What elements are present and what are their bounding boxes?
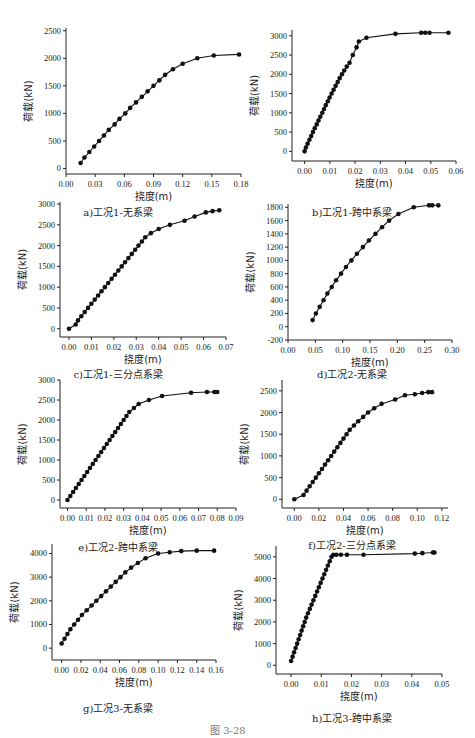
data-point-marker (151, 84, 156, 89)
data-point-marker (349, 258, 354, 263)
data-point-marker (393, 32, 398, 37)
data-point-marker (156, 227, 161, 232)
data-point-marker (320, 576, 325, 581)
data-point-marker (356, 419, 361, 424)
data-point-marker (123, 111, 128, 116)
data-point-marker (97, 139, 102, 144)
data-point-marker (89, 603, 94, 608)
data-point-marker (67, 326, 72, 331)
data-point-marker (432, 550, 437, 555)
y-tick-label: 1000 (38, 455, 55, 465)
load-deflection-line (291, 553, 434, 662)
chart-panel-a: 0.000.030.060.090.120.150.18050010001500… (8, 6, 238, 184)
x-tick-label: 0.12 (434, 513, 449, 523)
x-tick-label: 0.02 (106, 342, 121, 352)
x-tick-label: 0.10 (335, 345, 350, 355)
data-point-marker (65, 632, 70, 637)
y-tick-label: 3000 (254, 595, 271, 605)
y-tick-label: 0 (279, 322, 283, 332)
data-point-marker (163, 73, 168, 78)
y-tick-label: 600 (270, 282, 283, 292)
x-tick-label: 0.03 (373, 166, 388, 176)
data-point-marker (436, 203, 441, 208)
x-tick-label: 0.03 (374, 679, 389, 689)
data-point-marker (344, 432, 349, 437)
x-tick-label: 0.00 (287, 513, 302, 523)
data-point-marker (117, 117, 122, 122)
data-point-marker (123, 260, 128, 265)
load-deflection-line (313, 205, 439, 320)
y-tick-label: 1000 (270, 108, 287, 118)
data-point-marker (296, 637, 301, 642)
data-point-marker (299, 628, 304, 633)
data-point-marker (76, 318, 81, 323)
y-tick-label: 2000 (30, 596, 47, 606)
data-point-marker (147, 398, 152, 403)
data-point-marker (96, 454, 101, 459)
x-tick-label: 0.00 (60, 513, 75, 523)
x-tick-label: 0.05 (154, 513, 169, 523)
data-point-marker (380, 225, 385, 230)
x-tick-label: 0.05 (423, 166, 438, 176)
data-point-marker (118, 575, 123, 580)
y-tick-label: 1000 (266, 255, 283, 265)
data-point-marker (136, 243, 141, 248)
data-point-marker (373, 232, 378, 237)
x-tick-label: 0.06 (196, 342, 211, 352)
y-tick-label: 5000 (254, 552, 271, 562)
y-axis-label: 荷载(kN) (245, 251, 256, 292)
data-point-marker (351, 53, 356, 58)
x-tick-label: 0.10 (410, 513, 425, 523)
chart-panel-e: 0.000.010.020.030.040.050.060.070.080.09… (8, 356, 238, 528)
data-point-marker (99, 289, 104, 294)
y-tick-label: 2000 (44, 53, 61, 63)
y-tick-label: 0 (273, 494, 277, 504)
x-axis-label: 挠度(m) (340, 690, 378, 702)
data-point-marker (335, 445, 340, 450)
data-point-marker (307, 484, 312, 489)
data-point-marker (211, 53, 216, 58)
y-tick-label: 500 (42, 475, 55, 485)
x-tick-label: 0.06 (361, 513, 376, 523)
y-tick-label: 2500 (44, 26, 61, 36)
data-point-marker (102, 133, 107, 138)
data-point-marker (217, 208, 222, 213)
data-point-marker (420, 391, 425, 396)
x-tick-label: 0.03 (116, 513, 131, 523)
data-point-marker (82, 474, 87, 479)
data-point-marker (145, 89, 150, 94)
data-point-marker (393, 397, 398, 402)
y-tick-label: 3000 (38, 375, 55, 385)
load-deflection-line (81, 54, 240, 163)
data-point-marker (123, 570, 128, 575)
y-tick-label: 0 (51, 324, 55, 334)
data-point-marker (92, 297, 97, 302)
data-point-marker (189, 391, 194, 396)
y-axis-label: 荷载(kN) (17, 249, 28, 290)
data-point-marker (347, 60, 352, 65)
data-point-marker (345, 552, 350, 557)
data-point-marker (322, 572, 327, 577)
x-tick-label: 0.10 (151, 665, 166, 675)
data-point-marker (347, 428, 352, 433)
y-tick-label: 200 (270, 308, 283, 318)
y-tick-label: 0 (43, 643, 47, 653)
data-point-marker (309, 602, 314, 607)
x-tick-label: 0.00 (297, 166, 312, 176)
data-point-marker (204, 210, 209, 215)
data-point-marker (82, 155, 87, 160)
data-point-marker (133, 247, 138, 252)
data-point-marker (127, 410, 132, 415)
data-point-marker (109, 584, 114, 589)
caption-g: g)工况3-无系梁 (83, 700, 153, 715)
y-tick-label: 3000 (30, 572, 47, 582)
x-tick-label: 0.01 (84, 342, 99, 352)
x-tick-label: 0.20 (390, 345, 405, 355)
data-point-marker (210, 209, 215, 214)
data-point-marker (298, 633, 303, 638)
x-tick-label: 0.08 (131, 665, 146, 675)
data-point-marker (136, 402, 141, 407)
y-tick-label: 2000 (38, 241, 55, 251)
data-point-marker (124, 414, 129, 419)
data-point-marker (357, 39, 362, 44)
